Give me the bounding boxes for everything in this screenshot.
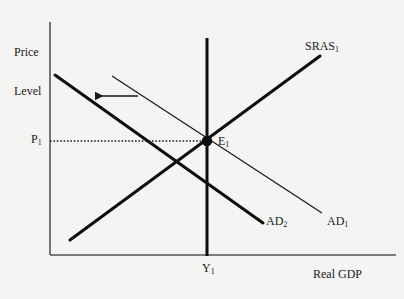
equilibrium-label: E1 <box>218 135 229 149</box>
x-axis-label: Real GDP <box>313 268 362 281</box>
ad1-curve-label: AD1 <box>327 215 348 229</box>
ad1-label-text: AD <box>327 214 344 228</box>
sras1-curve-label: SRAS1 <box>305 40 339 54</box>
sras1-label-subscript: 1 <box>335 45 339 54</box>
sras1-curve <box>70 56 320 240</box>
ad2-curve <box>55 75 263 223</box>
ad1-label-subscript: 1 <box>344 220 348 229</box>
sras1-label-text: SRAS <box>305 39 335 53</box>
output-text: Y <box>202 261 211 275</box>
ad2-curve-label: AD2 <box>266 215 287 229</box>
output-tick-label: Y1 <box>202 262 215 276</box>
price-level-subscript: 1 <box>38 138 42 147</box>
price-level-tick-label: P1 <box>31 133 42 147</box>
price-level-text: P <box>31 132 38 146</box>
y-axis-label: Price Level <box>14 20 41 124</box>
economics-diagram <box>0 0 404 299</box>
diagram-canvas: Price Level Real GDP SRAS1 AD1 AD2 P1 Y1… <box>0 0 404 299</box>
ad2-label-text: AD <box>266 214 283 228</box>
equilibrium-subscript: 1 <box>225 140 229 149</box>
output-subscript: 1 <box>211 267 215 276</box>
ad2-label-subscript: 2 <box>283 220 287 229</box>
ad1-curve <box>112 76 322 213</box>
y-axis-label-line2: Level <box>14 85 41 98</box>
y-axis-label-line1: Price <box>14 46 41 59</box>
equilibrium-point-marker <box>202 136 212 146</box>
